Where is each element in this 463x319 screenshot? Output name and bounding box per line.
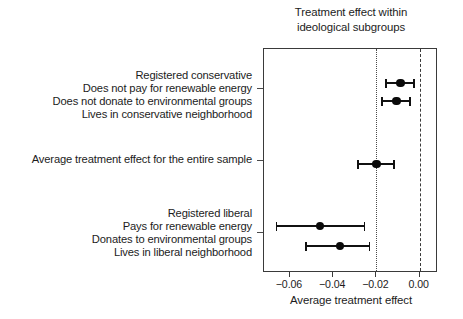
category-label-column: Registered conservative Does not pay for…: [0, 48, 258, 272]
plot-area: [263, 48, 437, 272]
x-axis-tick: [419, 272, 420, 277]
chart-title: Treatment effect within ideological subg…: [258, 5, 444, 34]
confidence-interval-cap-low: [276, 222, 278, 231]
chart-title-line-1: Treatment effect within: [258, 5, 444, 20]
chart-title-line-2: ideological subgroups: [258, 20, 444, 35]
confidence-interval-cap-high: [364, 222, 366, 231]
estimate-point: [372, 160, 380, 168]
category-label-registered-conservative: Registered conservative: [0, 69, 252, 82]
estimate-point: [392, 97, 400, 105]
estimate-point: [316, 222, 324, 230]
category-label-lives-liberal-neighborhood: Lives in liberal neighborhood: [0, 246, 252, 259]
estimate-point: [336, 242, 344, 250]
confidence-interval-cap-high: [413, 79, 415, 88]
forest-plot-figure: Treatment effect within ideological subg…: [0, 0, 463, 319]
confidence-interval-cap-low: [385, 79, 387, 88]
estimate-point: [396, 79, 404, 87]
x-axis-tick: [332, 272, 333, 277]
confidence-interval-cap-high: [369, 242, 371, 251]
category-label-pays-renewable: Pays for renewable energy: [0, 220, 252, 233]
category-label-lives-conservative-neighborhood: Lives in conservative neighborhood: [0, 108, 252, 121]
x-axis-tick-label: 0.00: [389, 278, 449, 290]
confidence-interval-cap-low: [305, 242, 307, 251]
reference-line-zero: [420, 49, 421, 271]
category-label-donates-environmental: Donates to environmental groups: [0, 233, 252, 246]
category-label-does-not-donate-environmental: Does not donate to environmental groups: [0, 95, 252, 108]
x-axis-title: Average treatment effect: [258, 294, 444, 306]
confidence-interval-cap-low: [357, 160, 359, 169]
confidence-interval-cap-high: [409, 97, 411, 106]
category-label-registered-liberal: Registered liberal: [0, 207, 252, 220]
x-axis-tick: [375, 272, 376, 277]
confidence-interval-cap-high: [393, 160, 395, 169]
category-label-does-not-pay-renewable: Does not pay for renewable energy: [0, 82, 252, 95]
x-axis-tick: [289, 272, 290, 277]
category-label-average-treatment-effect: Average treatment effect for the entire …: [0, 153, 252, 166]
confidence-interval-cap-low: [381, 97, 383, 106]
